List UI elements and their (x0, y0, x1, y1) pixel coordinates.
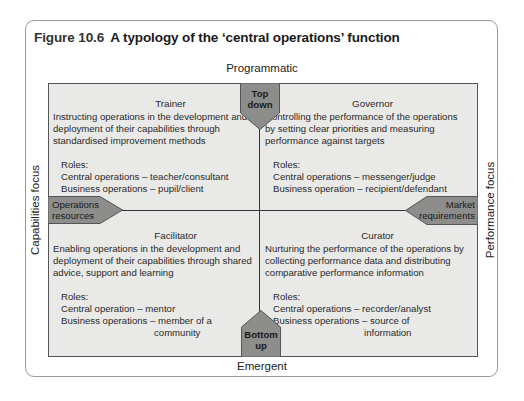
figure-number: Figure 10.6 (34, 30, 104, 45)
quadrant-trainer: Trainer Instructing operations in the de… (53, 98, 258, 195)
operations-resources-arrow: Operations resources (48, 196, 123, 224)
roles-list: Roles: Central operations – messenger/ju… (265, 159, 470, 195)
arrow-label-line: Top (240, 88, 280, 99)
role-item: Business operations – source of (273, 315, 470, 327)
quadrant-curator: Curator Nurturing the performance of the… (265, 230, 470, 339)
axis-label-programmatic: Programmatic (0, 62, 524, 74)
arrow-label-line: Market (419, 199, 475, 210)
role-item-continuation: community (61, 327, 258, 339)
role-item: Central operations – teacher/consultant (61, 171, 258, 183)
quadrant-title: Governor (265, 98, 470, 110)
arrow-label-line: up (241, 340, 281, 351)
quadrant-governor: Governor Controlling the performance of … (265, 98, 470, 195)
quadrant-description: Enabling operations in the development a… (53, 243, 252, 278)
arrow-label-line: Operations (52, 199, 99, 210)
role-item: Business operations – pupil/client (61, 183, 258, 195)
axis-label-performance-focus: Performance focus (484, 162, 496, 259)
figure-title: Figure 10.6A typology of the ‘central op… (34, 30, 400, 45)
quadrant-title: Trainer (53, 98, 258, 110)
quadrant-facilitator: Facilitator Enabling operations in the d… (53, 230, 258, 339)
quadrant-description: Controlling the performance of the opera… (265, 111, 458, 146)
roles-list: Roles: Central operations – recorder/ana… (265, 291, 470, 339)
axis-label-capabilities-focus: Capabilities focus (29, 165, 41, 255)
roles-label: Roles: (273, 159, 470, 171)
market-requirements-arrow: Market requirements (405, 196, 478, 225)
arrow-label-line: Bottom (241, 329, 281, 340)
top-down-arrow: Top down (240, 83, 280, 130)
roles-list: Roles: Central operation – mentor Busine… (53, 291, 258, 339)
role-item: Central operation – mentor (61, 303, 258, 315)
roles-label: Roles: (273, 291, 470, 303)
axis-label-emergent: Emergent (0, 360, 524, 372)
role-item-continuation: information (273, 327, 470, 339)
arrow-label: Bottom up (241, 329, 281, 351)
arrow-label-line: requirements (419, 210, 475, 221)
role-item: Central operations – recorder/analyst (273, 303, 470, 315)
quadrant-title: Curator (265, 230, 470, 242)
role-item: Business operation – recipient/defendant (273, 183, 470, 195)
arrow-label-line: down (240, 99, 280, 110)
roles-label: Roles: (61, 159, 258, 171)
arrow-label: Top down (240, 88, 280, 110)
role-item: Business operations – member of a (61, 315, 258, 327)
arrow-label-line: resources (52, 210, 99, 221)
roles-label: Roles: (61, 291, 258, 303)
roles-list: Roles: Central operations – teacher/cons… (53, 159, 258, 195)
quadrant-description: Instructing operations in the developmen… (53, 111, 247, 146)
figure-title-text: A typology of the ‘central operations’ f… (110, 30, 400, 45)
arrow-label: Operations resources (52, 199, 99, 221)
quadrant-title: Facilitator (53, 230, 258, 242)
role-item: Central operations – messenger/judge (273, 171, 470, 183)
arrow-label: Market requirements (419, 199, 475, 221)
bottom-up-arrow: Bottom up (241, 310, 281, 357)
quadrant-description: Nurturing the performance of the operati… (265, 243, 464, 278)
